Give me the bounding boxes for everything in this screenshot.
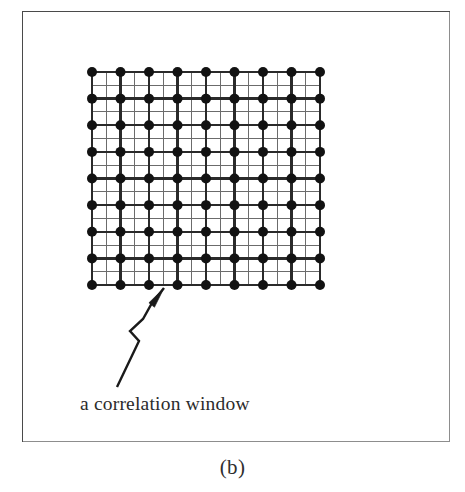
grid-node-dot xyxy=(201,174,211,184)
grid-node-dot xyxy=(87,280,97,290)
grid-node-dot xyxy=(144,280,154,290)
grid-node-dot xyxy=(144,147,154,157)
grid-node-dot xyxy=(258,200,268,210)
grid-node-dot xyxy=(315,280,325,290)
grid-node-dot xyxy=(173,253,183,263)
grid-node-dot xyxy=(287,280,297,290)
subfigure-label: (b) xyxy=(0,455,465,480)
grid-node-dot xyxy=(230,67,240,77)
grid-node-dot xyxy=(315,253,325,263)
grid-node-dot xyxy=(173,280,183,290)
grid-node-dot xyxy=(315,120,325,130)
grid-node-dot xyxy=(230,147,240,157)
grid-node-dot xyxy=(315,174,325,184)
grid-node-dot xyxy=(116,94,126,104)
grid-node-dot xyxy=(144,120,154,130)
figure-page: a correlation window (b) xyxy=(0,0,465,492)
grid-node-dot xyxy=(230,94,240,104)
grid-node-dot xyxy=(116,227,126,237)
grid-node-dot xyxy=(173,67,183,77)
grid-node-dot xyxy=(258,147,268,157)
correlation-window-grid xyxy=(0,0,465,492)
grid-node-dot xyxy=(287,200,297,210)
grid-node-dot xyxy=(315,200,325,210)
grid-node-dot xyxy=(144,200,154,210)
grid-node-dot xyxy=(287,174,297,184)
grid-node-dot xyxy=(87,67,97,77)
grid-node-dot xyxy=(87,200,97,210)
grid-node-dot xyxy=(144,67,154,77)
grid-node-dot xyxy=(87,147,97,157)
grid-node-dot xyxy=(201,120,211,130)
grid-node-dot xyxy=(201,94,211,104)
grid-node-dot xyxy=(87,227,97,237)
grid-node-dot xyxy=(287,147,297,157)
grid-node-dot xyxy=(258,280,268,290)
grid-node-dot xyxy=(258,174,268,184)
grid-node-dot xyxy=(87,174,97,184)
grid-node-dot xyxy=(230,120,240,130)
grid-node-dot xyxy=(230,253,240,263)
grid-node-dot xyxy=(173,147,183,157)
grid-node-dot xyxy=(87,253,97,263)
grid-node-dot xyxy=(201,280,211,290)
grid-node-dot xyxy=(144,174,154,184)
grid-node-dots xyxy=(87,67,325,290)
grid-node-dot xyxy=(315,67,325,77)
grid-node-dot xyxy=(230,280,240,290)
leader-arrow-icon xyxy=(117,288,164,387)
grid-node-dot xyxy=(258,120,268,130)
grid-node-dot xyxy=(87,120,97,130)
grid-node-dot xyxy=(116,67,126,77)
grid-node-dot xyxy=(144,227,154,237)
grid-node-dot xyxy=(201,227,211,237)
grid-node-dot xyxy=(116,200,126,210)
grid-node-dot xyxy=(116,120,126,130)
grid-node-dot xyxy=(173,94,183,104)
grid-node-dot xyxy=(201,147,211,157)
grid-node-dot xyxy=(173,227,183,237)
grid-node-dot xyxy=(315,227,325,237)
grid-node-dot xyxy=(230,200,240,210)
grid-node-dot xyxy=(258,67,268,77)
grid-node-dot xyxy=(116,174,126,184)
grid-node-dot xyxy=(173,200,183,210)
grid-node-dot xyxy=(287,120,297,130)
grid-node-dot xyxy=(230,174,240,184)
grid-node-dot xyxy=(173,120,183,130)
grid-node-dot xyxy=(116,147,126,157)
grid-node-dot xyxy=(201,200,211,210)
grid-node-dot xyxy=(144,253,154,263)
grid-node-dot xyxy=(116,280,126,290)
grid-node-dot xyxy=(201,67,211,77)
grid-node-dot xyxy=(230,227,240,237)
grid-node-dot xyxy=(144,94,154,104)
grid-node-dot xyxy=(258,253,268,263)
grid-node-dot xyxy=(287,227,297,237)
grid-node-dot xyxy=(116,253,126,263)
grid-node-dot xyxy=(201,253,211,263)
correlation-window-caption: a correlation window xyxy=(80,393,250,414)
grid-node-dot xyxy=(315,94,325,104)
grid-node-dot xyxy=(173,174,183,184)
grid-node-dot xyxy=(287,94,297,104)
grid-node-dot xyxy=(258,94,268,104)
grid-node-dot xyxy=(258,227,268,237)
grid-node-dot xyxy=(287,67,297,77)
grid-node-dot xyxy=(87,94,97,104)
grid-node-dot xyxy=(315,147,325,157)
grid-node-dot xyxy=(287,253,297,263)
